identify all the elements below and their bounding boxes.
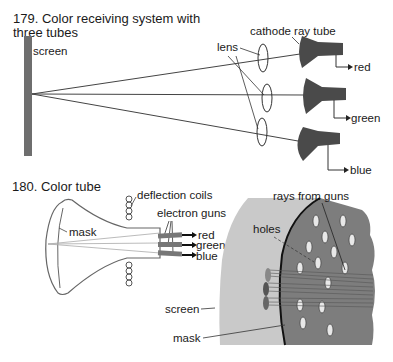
beam-1 xyxy=(48,233,160,244)
crt-green xyxy=(303,78,346,114)
crt-blue xyxy=(298,127,341,161)
fig179-red-label: red xyxy=(354,61,371,73)
screen-bar xyxy=(24,36,32,156)
deflection-coil-top xyxy=(126,196,132,220)
gun-blue xyxy=(158,250,182,256)
bundle-end-1 xyxy=(265,268,271,282)
gun-red xyxy=(158,232,182,238)
tube-mask-curve xyxy=(58,208,63,288)
fig180-mask-detail-label: mask xyxy=(173,332,201,344)
deflection-coils-label: deflection coils xyxy=(137,189,213,201)
lead-red xyxy=(336,55,348,67)
electron-guns-label: electron guns xyxy=(157,207,226,219)
lens-leader-1 xyxy=(240,48,260,55)
ray-red xyxy=(32,54,300,94)
deflection-coil-bottom xyxy=(126,262,132,286)
fig180-screen-label: screen xyxy=(165,303,200,315)
holes-label: holes xyxy=(253,223,281,235)
fig179-blue-label: blue xyxy=(350,164,372,176)
arrow-red-icon xyxy=(348,64,353,70)
screen-leader xyxy=(201,308,215,309)
lens-middle xyxy=(262,84,272,112)
fig180-caption: 180. Color tube xyxy=(12,179,101,194)
tube-outline xyxy=(46,199,160,294)
crt-leader xyxy=(292,37,299,44)
fig179-screen-label: screen xyxy=(33,45,68,57)
beam-2 xyxy=(48,243,160,244)
lens-bottom xyxy=(257,118,267,146)
arrow-blue-icon xyxy=(344,167,349,173)
gun-arrow-red-icon xyxy=(192,232,197,238)
lens-leader-3 xyxy=(236,56,258,129)
mask-leader xyxy=(59,228,67,232)
bundle-end-2 xyxy=(263,282,269,296)
bundle-end-3 xyxy=(263,296,269,310)
figure-179: 179. Color receiving system with three t… xyxy=(13,11,380,176)
figure-180: 180. Color tube mask deflection coils el… xyxy=(12,179,375,345)
fig180-blue-label: blue xyxy=(196,250,218,262)
lens-label: lens xyxy=(217,41,238,53)
lead-blue xyxy=(328,145,344,170)
beam-3 xyxy=(48,244,160,253)
fig179-green-label: green xyxy=(351,112,380,124)
fig180-mask-label: mask xyxy=(69,226,97,238)
fig179-caption-line2: three tubes xyxy=(13,25,79,40)
rays-from-guns-label: rays from guns xyxy=(273,190,349,202)
crt-label: cathode ray tube xyxy=(250,25,336,37)
lens-top xyxy=(258,44,268,72)
ray-blue xyxy=(32,94,298,141)
fig179-caption-line1: 179. Color receiving system with xyxy=(13,11,200,26)
gun-green xyxy=(158,242,182,247)
diagram-canvas: 179. Color receiving system with three t… xyxy=(0,0,393,362)
lead-green xyxy=(334,100,346,118)
